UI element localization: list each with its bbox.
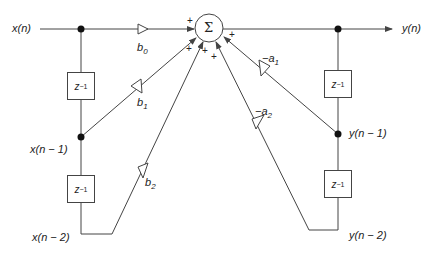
- node-output: [335, 26, 342, 33]
- node-x1: [78, 134, 85, 141]
- label-y2: y(n − 2): [349, 230, 387, 241]
- delay-x2: z−1: [67, 175, 95, 203]
- delay-y2: z−1: [324, 170, 352, 198]
- label-b2: b2: [145, 177, 156, 191]
- label-x1: x(n − 1): [30, 144, 68, 155]
- plus-sign: +: [202, 46, 208, 56]
- label-b1: b1: [137, 97, 148, 111]
- label-x2: x(n − 2): [32, 232, 70, 243]
- label-y1: y(n − 1): [349, 128, 387, 139]
- sigma-symbol: Σ: [204, 21, 213, 34]
- plus-sign: +: [229, 30, 235, 40]
- gain-b0-triangle: [138, 24, 148, 34]
- node-y1: [335, 131, 342, 138]
- plus-sign: +: [186, 44, 192, 54]
- label-a2: −a2: [255, 106, 272, 120]
- label-a1: −a1: [262, 53, 279, 67]
- plus-sign: +: [211, 52, 217, 62]
- a1-wire: [224, 37, 338, 134]
- label-output: y(n): [402, 23, 421, 34]
- delay-x1: z−1: [67, 72, 95, 100]
- label-b0: b0: [137, 42, 148, 56]
- gain-b1-triangle: [131, 79, 142, 93]
- node-input: [78, 26, 85, 33]
- delay-y1: z−1: [324, 70, 352, 98]
- filter-diagram: Σ + + + + + x(n) y(n) x(n − 1) x(n − 2) …: [0, 0, 432, 256]
- plus-sign: +: [187, 16, 193, 26]
- label-input: x(n): [12, 23, 31, 34]
